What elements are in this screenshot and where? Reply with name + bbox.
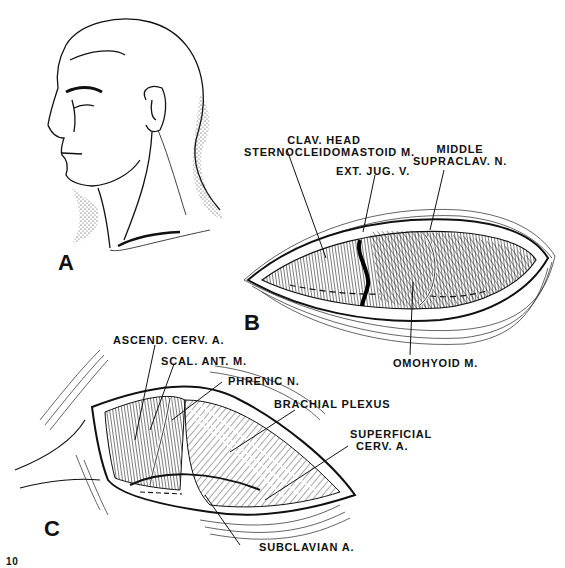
- label-phrenic-n: PHRENIC N.: [228, 375, 300, 387]
- label-subclavian-a: SUBCLAVIAN A.: [259, 541, 354, 553]
- label-ext-jug-v: EXT. JUG. V.: [336, 165, 410, 177]
- panel-a-shadow-neck-back: [193, 95, 224, 218]
- label-ascend-cerv-a: ASCEND. CERV. A.: [113, 334, 224, 346]
- label-scal-ant-m: SCAL. ANT. M.: [161, 355, 247, 367]
- panel-label-a: A: [58, 250, 74, 276]
- label-clav-head-sternocleidomastoid: CLAV. HEAD STERNOCLEIDOMASTOID M.: [244, 134, 404, 158]
- label-clav-head-line1: CLAV. HEAD: [244, 134, 404, 146]
- label-superficial-cerv-a: SUPERFICIAL CERV. A.: [350, 428, 432, 452]
- panel-c-incision-drawing: [15, 350, 355, 539]
- panel-a-shadow-neck-front: [72, 188, 98, 244]
- label-middle-supraclav-n: MIDDLE SUPRACLAV. N.: [410, 143, 510, 167]
- panel-a-head-drawing: [48, 19, 220, 251]
- label-middle-supraclav-line2: SUPRACLAV. N.: [410, 155, 510, 167]
- page-number: 10: [6, 556, 19, 568]
- label-middle-supraclav-line1: MIDDLE: [410, 143, 510, 155]
- panel-b-incision-drawing: [244, 209, 555, 344]
- label-brachial-plexus: BRACHIAL PLEXUS: [274, 398, 390, 410]
- label-clav-head-line2: STERNOCLEIDOMASTOID M.: [244, 146, 404, 158]
- panel-label-b: B: [244, 310, 260, 336]
- panel-label-c: C: [44, 516, 60, 542]
- label-omohyoid-m: OMOHYOID M.: [393, 357, 478, 369]
- label-superficial-line2: CERV. A.: [350, 440, 432, 452]
- label-superficial-line1: SUPERFICIAL: [350, 428, 432, 440]
